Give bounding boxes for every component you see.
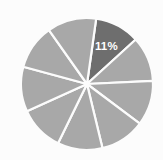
pie-chart-container: 11% xyxy=(0,0,163,160)
pie-chart-svg: 11% xyxy=(0,0,163,160)
pie-labels-group: 11% xyxy=(95,40,118,52)
pie-slice-percentage-label: 11% xyxy=(95,40,118,52)
pie-slices-group xyxy=(21,18,153,150)
